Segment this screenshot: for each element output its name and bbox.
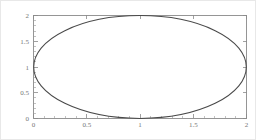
x-tick-label-2: 2 xyxy=(245,121,249,129)
y-tick-labels: 0 0.5 1 1.5 2 xyxy=(20,12,29,123)
y-tick-label-0p5: 0.5 xyxy=(20,89,29,97)
x-tick-label-0: 0 xyxy=(32,121,36,129)
plot-svg: 0 0.5 1 1.5 2 0 0.5 1 1.5 2 xyxy=(1,1,256,140)
ellipse-path xyxy=(34,16,247,119)
y-tick-label-1p5: 1.5 xyxy=(20,38,29,46)
x-tick-label-1: 1 xyxy=(138,121,142,129)
plot-figure: 0 0.5 1 1.5 2 0 0.5 1 1.5 2 xyxy=(0,0,256,140)
x-tick-labels: 0 0.5 1 1.5 2 xyxy=(32,121,249,129)
y-tick-label-1: 1 xyxy=(26,64,30,72)
y-tick-label-0: 0 xyxy=(26,115,30,123)
x-tick-label-1p5: 1.5 xyxy=(189,121,198,129)
data-curve-ellipse xyxy=(34,16,247,119)
y-tick-label-2: 2 xyxy=(26,12,30,20)
x-tick-label-0p5: 0.5 xyxy=(82,121,91,129)
